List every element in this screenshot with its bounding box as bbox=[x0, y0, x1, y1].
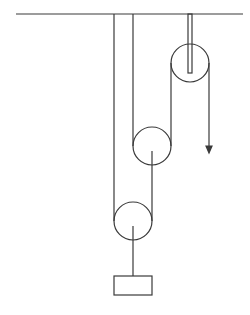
fixed-pulley bbox=[171, 44, 209, 82]
arrow-down-icon bbox=[206, 146, 212, 153]
pulley-diagram bbox=[0, 0, 250, 315]
weight-box bbox=[114, 276, 152, 295]
